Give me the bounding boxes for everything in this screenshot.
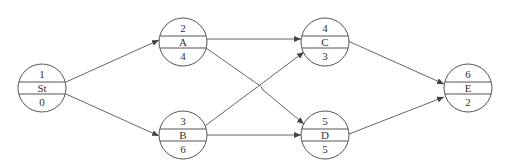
node-bottom-label: 6 bbox=[180, 143, 186, 155]
node-name-label: E bbox=[465, 82, 472, 94]
node-name-label: B bbox=[179, 129, 186, 141]
node-st: 1 St 0 bbox=[18, 64, 66, 112]
node-top-label: 5 bbox=[322, 115, 328, 127]
node-e: 6 E 2 bbox=[444, 64, 492, 112]
node-name-label: A bbox=[179, 36, 187, 48]
node-name-label: D bbox=[321, 129, 329, 141]
edge-c-e bbox=[348, 41, 444, 84]
edge-st-b bbox=[66, 94, 159, 136]
node-top-label: 6 bbox=[465, 68, 471, 80]
node-bottom-label: 0 bbox=[39, 96, 45, 108]
node-c: 4 C 3 bbox=[301, 18, 349, 66]
edge-d-e bbox=[349, 97, 444, 134]
node-bottom-label: 4 bbox=[180, 50, 186, 62]
node-d: 5 D 5 bbox=[301, 111, 349, 159]
node-top-label: 3 bbox=[180, 115, 186, 127]
node-bottom-label: 2 bbox=[465, 96, 471, 108]
edge-a-d bbox=[206, 48, 304, 124]
network-diagram: 1 St 0 2 A 4 3 B 6 4 C 3 5 D 5 bbox=[0, 0, 505, 165]
node-b: 3 B 6 bbox=[159, 111, 207, 159]
node-top-label: 2 bbox=[180, 22, 186, 34]
node-name-label: C bbox=[321, 36, 328, 48]
node-a: 2 A 4 bbox=[159, 18, 207, 66]
node-name-label: St bbox=[37, 82, 46, 94]
node-bottom-label: 3 bbox=[322, 50, 328, 62]
edge-st-a bbox=[66, 40, 159, 82]
node-top-label: 1 bbox=[39, 68, 45, 80]
edge-b-c bbox=[205, 52, 304, 126]
node-top-label: 4 bbox=[322, 22, 328, 34]
node-bottom-label: 5 bbox=[322, 143, 328, 155]
